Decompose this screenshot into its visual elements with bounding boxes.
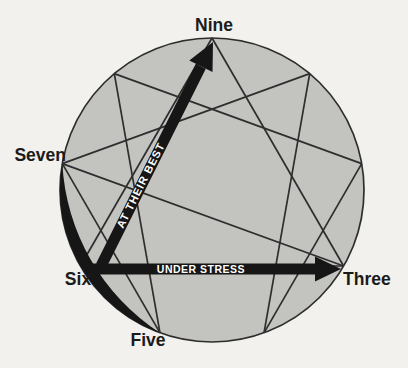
arrow-under-stress-label: UNDER STRESS xyxy=(157,263,245,275)
label-three: Three xyxy=(343,269,391,289)
label-seven: Seven xyxy=(14,145,66,165)
label-nine: Nine xyxy=(195,15,233,35)
label-five: Five xyxy=(130,330,165,350)
page: AT THEIR BEST UNDER STRESS Nine Seven Si… xyxy=(0,0,408,368)
enneagram-diagram: AT THEIR BEST UNDER STRESS Nine Seven Si… xyxy=(0,0,408,368)
label-six: Six xyxy=(65,269,92,289)
